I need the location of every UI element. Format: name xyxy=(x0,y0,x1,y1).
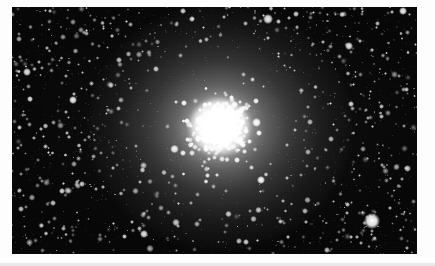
star xyxy=(215,125,220,130)
star xyxy=(266,71,268,73)
star xyxy=(329,69,331,71)
star xyxy=(165,30,167,32)
star xyxy=(208,28,209,29)
star xyxy=(225,119,230,124)
star xyxy=(115,185,116,186)
star xyxy=(214,122,220,128)
star xyxy=(12,12,15,17)
star xyxy=(217,123,222,128)
star xyxy=(319,236,323,240)
star xyxy=(211,125,216,130)
star xyxy=(197,120,203,126)
star xyxy=(218,125,224,131)
star xyxy=(215,125,219,129)
star xyxy=(214,124,218,128)
star xyxy=(216,125,220,129)
star xyxy=(393,164,400,171)
star xyxy=(106,227,111,232)
star xyxy=(328,136,334,142)
star xyxy=(290,53,294,57)
star xyxy=(282,220,284,222)
star xyxy=(216,126,220,130)
star xyxy=(32,69,33,70)
star xyxy=(198,120,204,126)
star xyxy=(149,82,151,84)
star xyxy=(220,113,227,120)
star xyxy=(213,133,220,140)
star xyxy=(176,193,177,194)
star xyxy=(222,125,226,129)
star xyxy=(289,218,292,221)
star xyxy=(114,226,115,227)
star xyxy=(221,122,226,127)
star xyxy=(218,125,225,132)
star xyxy=(219,126,223,130)
star xyxy=(409,15,411,17)
star xyxy=(160,16,162,18)
star xyxy=(221,120,225,124)
star xyxy=(193,67,194,68)
star xyxy=(399,147,401,149)
star xyxy=(218,123,223,128)
star xyxy=(227,104,232,109)
star xyxy=(217,123,226,132)
star xyxy=(90,93,95,98)
star xyxy=(209,118,215,124)
star xyxy=(209,132,214,137)
star xyxy=(215,126,221,132)
star xyxy=(225,122,231,128)
star xyxy=(218,127,223,132)
star xyxy=(217,123,222,128)
star xyxy=(260,50,261,51)
star xyxy=(147,179,153,185)
star xyxy=(73,48,78,53)
star xyxy=(374,26,375,27)
star xyxy=(391,222,393,224)
star xyxy=(210,136,215,141)
star xyxy=(216,121,222,127)
star xyxy=(221,124,225,128)
star xyxy=(217,122,222,127)
star xyxy=(184,45,188,49)
star xyxy=(415,19,417,21)
star xyxy=(215,124,222,131)
star xyxy=(255,207,262,214)
star xyxy=(72,92,76,96)
star xyxy=(216,124,221,129)
star xyxy=(216,123,220,127)
star xyxy=(216,121,222,127)
star xyxy=(228,7,232,9)
star xyxy=(220,125,226,131)
star xyxy=(365,103,366,104)
star xyxy=(216,126,221,131)
star xyxy=(227,56,228,57)
star xyxy=(309,53,311,55)
star xyxy=(221,33,222,34)
star xyxy=(51,202,52,203)
star xyxy=(198,130,205,137)
star xyxy=(209,116,214,121)
star xyxy=(75,95,78,98)
star xyxy=(350,100,351,101)
star xyxy=(220,126,226,132)
star xyxy=(227,122,234,129)
star xyxy=(163,168,164,169)
star xyxy=(217,119,223,125)
star xyxy=(153,179,155,181)
star xyxy=(220,123,225,128)
star xyxy=(27,132,28,133)
star xyxy=(215,121,222,128)
star xyxy=(180,166,182,168)
star xyxy=(83,57,85,59)
star xyxy=(221,120,225,124)
star xyxy=(220,101,222,103)
star xyxy=(204,124,208,128)
star xyxy=(334,57,335,58)
star xyxy=(215,129,221,135)
star xyxy=(217,116,224,123)
star xyxy=(216,121,223,128)
star xyxy=(209,125,216,132)
star xyxy=(358,104,359,105)
star xyxy=(66,188,72,194)
star xyxy=(215,126,220,131)
